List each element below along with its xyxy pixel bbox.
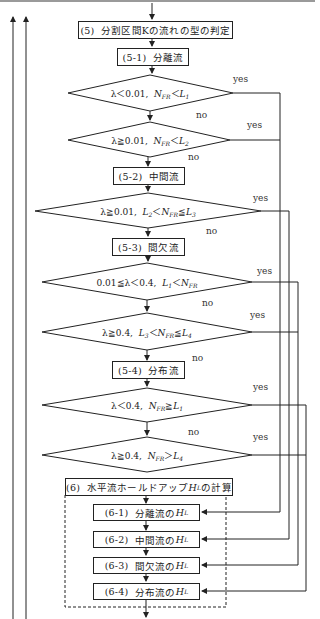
step-5-4-distributed-flow: (5-4) 分布流 [112, 361, 185, 379]
decision-d2-text: λ≧0.01, NFR＜L2 [111, 134, 189, 147]
yes-label-d1: yes [233, 74, 248, 84]
decision-d7-text: λ≧0.4, NFR＞L4 [111, 449, 183, 462]
no-label-d3: no [206, 226, 217, 236]
yes-label-d6: yes [253, 382, 268, 392]
calc-step-6-2: (6-2) 中間流のHL [93, 531, 200, 548]
decision-d4-text: 0.01≦λ＜0.4, L1＜NFR [96, 276, 197, 289]
no-label-d6: no [188, 427, 199, 437]
no-label-d4: no [202, 298, 213, 308]
yes-label-d7: yes [253, 432, 268, 442]
step-label: 分離流 [153, 50, 184, 64]
no-label-d2: no [188, 152, 199, 162]
decision-d1-text: λ＜0.01, NFR＜L1 [111, 87, 190, 100]
yes-label-d3: yes [253, 193, 268, 203]
step-number: (5-2) [119, 171, 143, 182]
yes-label-d4: yes [257, 266, 272, 276]
no-label-d5: no [192, 353, 203, 363]
step-number: (5-1) [123, 52, 147, 63]
step-5-1-separated-flow: (5-1) 分離流 [117, 48, 189, 66]
step-number: (5-4) [118, 365, 142, 376]
step-5-3-intermittent-flow: (5-3) 間欠流 [112, 238, 185, 256]
step-label: 間欠流 [148, 240, 179, 254]
step-number: (5-3) [118, 242, 142, 253]
no-label-d1: no [196, 110, 207, 120]
step-5-2-intermediate-flow: (5-2) 中間流 [113, 167, 185, 185]
yes-label-d2: yes [247, 120, 262, 130]
calc-step-6-3: (6-3) 間欠流のHL [93, 557, 200, 574]
calc-step-6-4: (6-4) 分布流のHL [93, 583, 200, 600]
decision-d3-text: λ≧0.01, L2＜NFR≦L3 [100, 205, 196, 218]
decision-d5-text: λ≧0.4, L3＜NFR≦L4 [102, 326, 192, 339]
horizontal-holdup-calc-box: (6) 水平流ホールドアップHLの計算 [65, 478, 233, 496]
step-number: (6) [66, 482, 80, 493]
step-label: 中間流 [149, 169, 180, 183]
decision-d6-text: λ＜0.4, NFR≧L1 [111, 399, 183, 412]
step-label: 分布流 [148, 363, 179, 377]
yes-label-d5: yes [250, 310, 265, 320]
calc-step-6-1: (6-1) 分離流のHL [93, 504, 200, 521]
step-number: (5) [80, 25, 94, 36]
flow-type-determination-box: (5) 分割区間Kの流れの型の判定 [78, 21, 233, 39]
step-label: 分割区間Kの流れの型の判定 [101, 23, 231, 37]
